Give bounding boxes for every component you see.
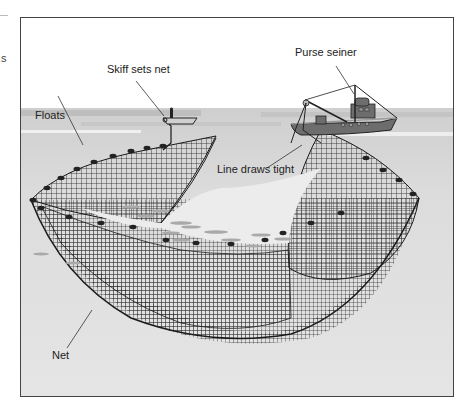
sky: [21, 18, 454, 108]
label-line-draws-tight: Line draws tight: [217, 163, 294, 175]
label-floats: Floats: [35, 109, 65, 121]
illustration-frame: Skiff sets net Purse seiner Floats Line …: [20, 17, 454, 397]
margin-rule: [0, 15, 8, 16]
margin-text-fragment: s: [1, 52, 7, 64]
label-purse-seiner: Purse seiner: [295, 46, 357, 58]
purse-seine-illustration: [21, 18, 454, 397]
label-skiff-sets-net: Skiff sets net: [107, 63, 170, 75]
label-net: Net: [52, 349, 69, 361]
